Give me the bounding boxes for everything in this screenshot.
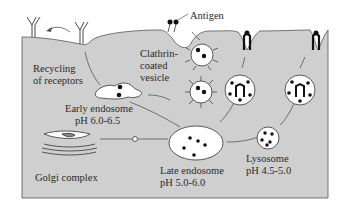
- mhc-surface-1: [244, 31, 250, 51]
- late-endosome-ph: pH 5.0-6.0: [160, 177, 205, 189]
- lysosome-label: Lysosome: [246, 153, 289, 165]
- late-endosome-label: Late endosome: [160, 165, 224, 177]
- transport-vesicle: [133, 137, 138, 142]
- clathrin-label-1: Clathrin-: [140, 48, 178, 60]
- antigen-label: Antigen: [190, 10, 224, 22]
- mhc-vesicle-1: [225, 75, 255, 105]
- clathrin-label-2: coated: [140, 60, 167, 72]
- clathrin-vesicle: [185, 76, 217, 108]
- clathrin-label-3: vesicle: [140, 72, 169, 84]
- recycling-label-2: of receptors: [33, 75, 83, 87]
- early-endosome-ph: pH 6.0-6.5: [75, 115, 120, 127]
- lysosome-shape: [257, 127, 279, 149]
- late-endosome-shape: [169, 126, 223, 160]
- recycling-label-1: Recycling: [33, 63, 76, 75]
- antigen-icon: [168, 14, 189, 32]
- mhc-vesicle-2: [285, 75, 315, 105]
- lysosome-ph: pH 4.5-5.0: [246, 165, 291, 177]
- golgi-label: Golgi complex: [35, 172, 98, 184]
- early-endosome-label: Early endosome: [65, 103, 133, 115]
